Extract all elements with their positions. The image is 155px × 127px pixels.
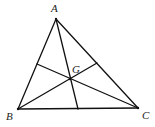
vertex-a-label: A — [50, 2, 58, 14]
centroid-label: G — [72, 63, 80, 75]
vertex-b-label: B — [6, 110, 13, 122]
median-from-c — [37, 64, 138, 108]
vertex-c-label: C — [142, 109, 150, 121]
vertex-a-point — [55, 18, 57, 20]
median-from-b — [18, 63, 97, 109]
triangle-medians-diagram: A B C G — [0, 0, 155, 127]
centroid-point — [69, 78, 71, 80]
vertex-c-point — [137, 107, 139, 109]
vertex-b-point — [17, 108, 19, 110]
